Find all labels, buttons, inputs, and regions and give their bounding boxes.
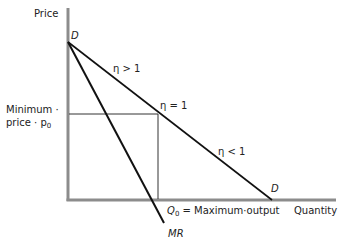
max-output-label: Q0 = Maximum·output	[167, 205, 280, 220]
max-output-text: = Maximum·output	[179, 205, 279, 216]
minimum-price-label-line1: Minimum ·	[6, 104, 59, 116]
minimum-price-subscript: 0	[47, 122, 51, 130]
marginal-revenue-label: MR	[168, 228, 184, 240]
elastic-label: η > 1	[113, 63, 140, 75]
quantity-axis-label: Quantity	[294, 205, 337, 217]
demand-curve-label-bottom: D	[271, 183, 279, 195]
max-output-symbol: Q	[167, 205, 175, 216]
minimum-price-label-line2: price · p0	[6, 117, 51, 132]
demand-curve-label-top: D	[71, 30, 79, 42]
unit-elastic-label: η = 1	[160, 100, 187, 112]
demand-curve	[68, 42, 272, 200]
minimum-price-prefix: price ·	[6, 117, 40, 128]
inelastic-label: η < 1	[218, 146, 245, 158]
price-axis-label: Price	[34, 8, 58, 20]
